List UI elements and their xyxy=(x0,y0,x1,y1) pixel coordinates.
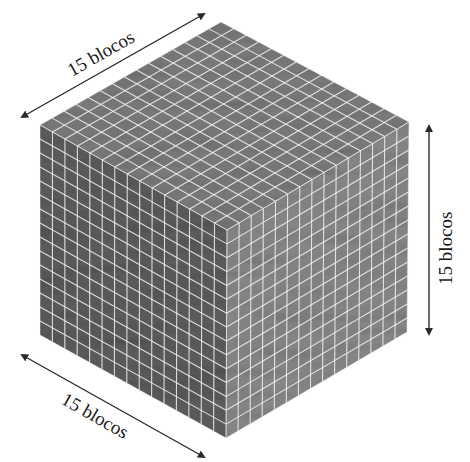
dimension-right: 15 blocos xyxy=(429,126,456,334)
label-right-edge: 15 blocos xyxy=(435,212,456,285)
cube xyxy=(40,22,409,438)
left-face-gridline xyxy=(139,181,140,390)
cube-diagram: 15 blocos 15 blocos 15 blocos xyxy=(0,0,470,462)
left-face-gridline xyxy=(152,188,153,397)
left-face-gridline xyxy=(164,195,165,404)
left-face-gridline xyxy=(176,202,177,411)
